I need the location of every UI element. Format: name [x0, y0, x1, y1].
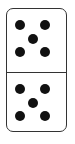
domino-pip: [28, 98, 38, 108]
domino-pip: [40, 47, 50, 57]
domino-pip: [15, 47, 25, 57]
domino-tile[interactable]: [6, 8, 67, 132]
domino-pip: [40, 20, 50, 30]
domino-pip: [15, 111, 25, 121]
domino-pip: [15, 84, 25, 94]
domino-pip: [40, 84, 50, 94]
domino-pip: [40, 111, 50, 121]
domino-top-half: [7, 9, 66, 71]
domino-pip: [28, 34, 38, 44]
domino-bottom-half: [7, 73, 66, 135]
domino-pip: [15, 20, 25, 30]
